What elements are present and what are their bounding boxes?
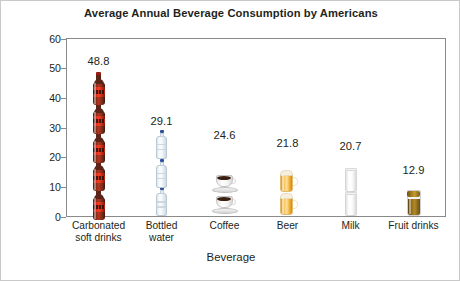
y-tick-mark-0 [61, 217, 66, 218]
chart-figure: Average Annual Beverage Consumption by A… [0, 0, 460, 281]
column-bottled-water[interactable]: 29.1 [130, 39, 193, 216]
stack-coffee [193, 143, 256, 216]
x-tick-label-fruit-drinks: Fruit drinks [382, 220, 445, 244]
column-fruit-drinks[interactable]: 12.9 [382, 39, 445, 216]
cola-bottle-icon [91, 72, 106, 101]
water-bottle-icon [155, 159, 168, 188]
y-tick-label-40: 40 [23, 92, 61, 104]
value-label-fruit-drinks: 12.9 [382, 164, 445, 176]
stack-beer [256, 152, 319, 216]
y-tick-label-30: 30 [23, 122, 61, 134]
milk-glass-icon [344, 168, 357, 192]
juice-glass-icon [406, 190, 421, 216]
column-coffee[interactable]: 24.6 [193, 39, 256, 216]
column-beer[interactable]: 21.8 [256, 39, 319, 216]
x-axis-title: Beverage [1, 251, 460, 263]
cola-bottle-icon [91, 101, 106, 130]
stack-milk [319, 155, 382, 216]
x-tick-label-beer: Beer [256, 220, 319, 244]
value-label-coffee: 24.6 [193, 129, 256, 141]
x-axis-tick-labels: Carbonated soft drinks Bottled water Cof… [67, 220, 445, 244]
milk-glass-icon [344, 192, 357, 216]
y-tick-label-0: 0 [23, 211, 61, 223]
y-tick-label-60: 60 [23, 33, 61, 45]
coffee-cup-icon [212, 195, 238, 216]
value-label-bottled-water: 29.1 [130, 115, 193, 127]
value-label-milk: 20.7 [319, 140, 382, 152]
value-label-carbonated-soft-drinks: 48.8 [67, 55, 130, 67]
y-tick-label-10: 10 [23, 181, 61, 193]
y-tick-label-20: 20 [23, 151, 61, 163]
water-bottle-icon [155, 187, 168, 216]
x-tick-label-coffee: Coffee [193, 220, 256, 244]
y-tick-label-50: 50 [23, 62, 61, 74]
x-tick-label-carbonated-soft-drinks: Carbonated soft drinks [67, 220, 130, 244]
stack-fruit-drinks [382, 178, 445, 216]
beer-mug-icon [278, 170, 298, 193]
stack-bottled-water [130, 130, 193, 216]
beer-mug-icon [278, 193, 298, 216]
x-tick-label-bottled-water: Bottled water [130, 220, 193, 244]
value-label-beer: 21.8 [256, 137, 319, 149]
cola-bottle-icon [91, 130, 106, 159]
column-milk[interactable]: 20.7 [319, 39, 382, 216]
cola-bottle-icon [91, 187, 106, 216]
column-carbonated-soft-drinks[interactable]: 48.8 [67, 39, 130, 216]
pictogram-columns: 48.8 29.1 24.6 [67, 39, 445, 216]
x-tick-label-milk: Milk [319, 220, 382, 244]
water-bottle-icon [155, 130, 168, 159]
stack-carbonated-soft-drinks [67, 72, 130, 216]
cola-bottle-icon [91, 158, 106, 187]
coffee-cup-icon [212, 174, 238, 195]
